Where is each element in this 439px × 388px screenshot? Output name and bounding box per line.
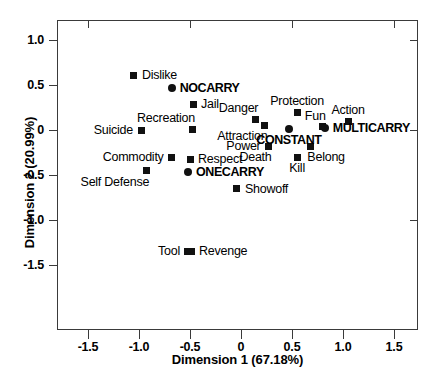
data-point-nocarry[interactable] [168,84,176,92]
data-point-self-defense[interactable] [143,167,150,174]
x-tick-1.0 [343,330,344,339]
data-point-dislike[interactable] [130,72,137,79]
point-label-recreation: Recreation [137,112,195,125]
y-axis-title: Dimension 2 (20.99%) [22,68,37,298]
data-point-multicarry[interactable] [321,124,329,132]
data-point-protection[interactable] [294,109,301,116]
y-tick-label-1.0: 1.0 [0,33,44,47]
data-point-recreation[interactable] [189,126,196,133]
point-label-fun: Fun [305,110,326,123]
point-label-nocarry: NOCARRY [180,81,240,94]
point-label-action: Action [331,104,364,117]
data-point-respect[interactable] [187,156,194,163]
x-axis-title: Dimension 1 (67.18%) [57,352,418,367]
x-tick-top--0.5 [190,20,191,28]
y-tick-right-0 [410,130,418,131]
point-label-self-defense: Self Defense [81,175,150,188]
y-tick-0.5 [49,85,58,86]
y-tick-right-1.0 [410,40,418,41]
point-label-revenge: Revenge [199,245,247,258]
point-label-commodity: Commodity [103,151,164,164]
x-tick-top--1.5 [88,20,89,28]
data-point-danger[interactable] [252,116,259,123]
x-tick-0 [241,330,242,339]
x-tick-top-0.5 [292,20,293,28]
data-point-attraction[interactable] [261,122,268,129]
point-label-tool: Tool [158,245,180,258]
y-tick-0 [49,130,58,131]
y-tick--1.0 [49,220,58,221]
data-point-commodity[interactable] [168,154,175,161]
point-label-multicarry: MULTICARRY [333,122,410,135]
point-label-protection: Protection [270,95,324,108]
data-point-suicide[interactable] [138,127,145,134]
x-tick--0.5 [190,330,191,339]
data-point-jail[interactable] [190,101,197,108]
point-label-danger: Danger [219,102,259,115]
y-tick--1.5 [49,265,58,266]
x-tick-top-1.5 [394,20,395,28]
y-tick--0.5 [49,175,58,176]
scatter-plot-figure: 1.0 0.5 0 -0.5 -1.0 -1.5 -1.5 -1.0 -0.5 … [0,0,439,388]
point-label-showoff: Showoff [245,183,288,196]
data-point-revenge[interactable] [188,248,195,255]
point-label-belong: Belong [307,151,344,164]
x-tick--1.0 [139,330,140,339]
point-label-constant: CONSTANT [256,134,321,147]
point-label-kill: Kill [289,162,305,175]
x-tick--1.5 [88,330,89,339]
data-point-onecarry[interactable] [184,168,192,176]
point-label-dislike: Dislike [142,69,177,82]
point-label-onecarry: ONECARRY [196,166,264,179]
point-label-jail: Jail [201,98,219,111]
y-tick-right--1.0 [410,220,418,221]
point-label-suicide: Suicide [94,124,133,137]
data-point-kill[interactable] [294,154,301,161]
point-label-death: Death [239,151,271,164]
y-tick-1.0 [49,40,58,41]
x-tick-1.5 [394,330,395,339]
data-point-showoff[interactable] [233,185,240,192]
x-tick-0.5 [292,330,293,339]
